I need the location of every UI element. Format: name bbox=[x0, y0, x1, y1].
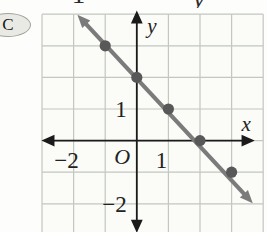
figure-option-c: xyO−211−2 C 1 y bbox=[0, 0, 267, 232]
y-tick-label: −2 bbox=[102, 192, 126, 217]
clipped-text-remnant-left: 1 bbox=[70, 0, 87, 9]
y-tick-label: 1 bbox=[115, 97, 127, 122]
remnant-glyph: y bbox=[189, 0, 209, 8]
origin-label: O bbox=[114, 144, 130, 169]
coordinate-graph: xyO−211−2 bbox=[0, 0, 267, 232]
answer-choice-label: C bbox=[2, 15, 13, 35]
x-axis-label: x bbox=[240, 112, 251, 136]
y-axis-label: y bbox=[145, 14, 157, 38]
data-point bbox=[194, 135, 205, 146]
data-point bbox=[163, 103, 174, 114]
clipped-text-remnant-right: y bbox=[189, 0, 209, 8]
remnant-glyph: 1 bbox=[70, 0, 87, 8]
x-tick-label: 1 bbox=[156, 148, 168, 173]
plot-area bbox=[42, 14, 263, 232]
data-point bbox=[226, 167, 237, 178]
data-point bbox=[131, 72, 142, 83]
data-point bbox=[100, 40, 111, 51]
x-tick-label: −2 bbox=[54, 148, 78, 173]
